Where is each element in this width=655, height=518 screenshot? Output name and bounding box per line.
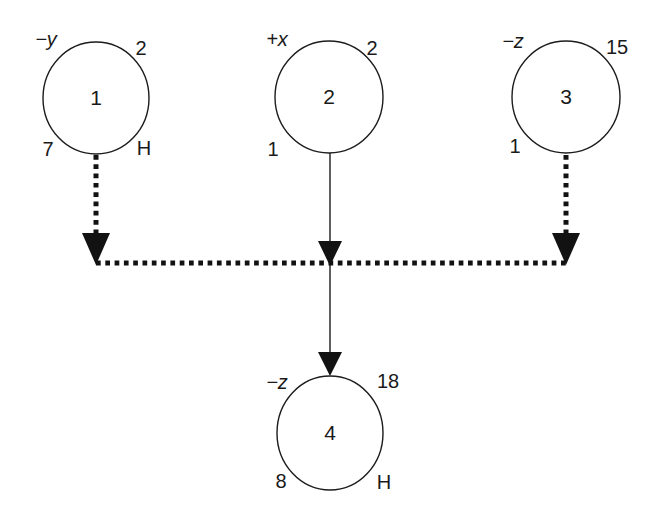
node-1-bottom-right-label: H bbox=[137, 137, 151, 159]
down-arrowhead-icon-right bbox=[552, 233, 580, 265]
node-3-center-label: 3 bbox=[560, 85, 572, 108]
node-1-top-left-label: −y bbox=[35, 28, 58, 50]
node-4-bottom-left-label: 8 bbox=[275, 470, 286, 492]
node-3-top-right-label: 15 bbox=[606, 36, 628, 58]
node-3-bottom-left-label: 1 bbox=[509, 135, 520, 157]
figure-canvas: 1 −y 2 7 H 2 +x 2 1 3 −z 15 1 4 −z 18 8 … bbox=[0, 0, 655, 518]
node-1-center-label: 1 bbox=[90, 86, 102, 109]
node-3-top-left-label: −z bbox=[502, 30, 524, 52]
node-1-bottom-left-label: 7 bbox=[42, 138, 53, 160]
down-arrowhead-icon-node4 bbox=[318, 352, 342, 376]
node-4-top-right-label: 18 bbox=[377, 370, 399, 392]
node-1-top-right-label: 2 bbox=[135, 37, 146, 59]
node-2-top-left-label: +x bbox=[266, 28, 289, 50]
node-4-center-label: 4 bbox=[324, 421, 336, 444]
node-2-center-label: 2 bbox=[323, 85, 335, 108]
node-link-diagram: 1 −y 2 7 H 2 +x 2 1 3 −z 15 1 4 −z 18 8 … bbox=[0, 0, 655, 518]
down-arrowhead-icon-left bbox=[82, 233, 110, 265]
node-4-top-left-label: −z bbox=[266, 371, 288, 393]
node-4-bottom-right-label: H bbox=[377, 471, 391, 493]
node-2-top-right-label: 2 bbox=[366, 37, 377, 59]
node-2-bottom-left-label: 1 bbox=[267, 138, 278, 160]
